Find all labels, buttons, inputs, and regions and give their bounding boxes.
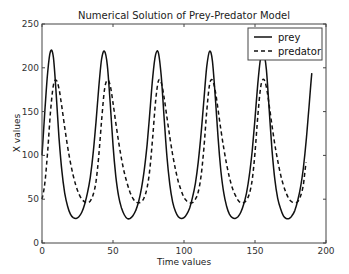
x-axis-label: Time values <box>156 257 211 267</box>
y-tick-label: 150 <box>22 107 39 117</box>
legend: prey predator <box>248 28 322 60</box>
x-tick-label: 150 <box>246 246 263 256</box>
y-tick-label: 0 <box>33 238 39 248</box>
x-tick-label: 100 <box>175 246 192 256</box>
y-tick-label: 200 <box>22 63 39 73</box>
prey-predator-chart: Numerical Solution of Prey-Predator Mode… <box>0 0 349 274</box>
y-tick-label: 50 <box>28 194 40 204</box>
chart-title: Numerical Solution of Prey-Predator Mode… <box>78 10 290 21</box>
legend-label-predator: predator <box>278 46 322 57</box>
legend-label-prey: prey <box>278 32 300 43</box>
y-tick-label: 250 <box>22 19 39 29</box>
y-axis-label: X values <box>12 114 22 153</box>
x-tick-label: 0 <box>39 246 45 256</box>
x-tick-label: 50 <box>107 246 119 256</box>
x-tick-label: 200 <box>317 246 334 256</box>
y-tick-label: 100 <box>22 150 39 160</box>
